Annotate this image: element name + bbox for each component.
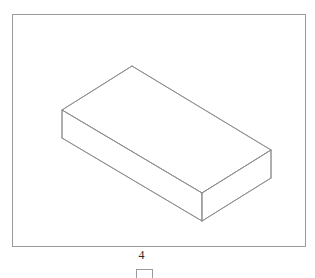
figure-border	[12, 14, 306, 247]
dimension-value: 4	[139, 249, 145, 262]
dimension-label-container: 4	[0, 249, 315, 262]
cropped-rectangle	[136, 269, 153, 278]
